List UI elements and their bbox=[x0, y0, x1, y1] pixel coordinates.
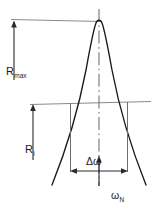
r-i-label: Ri bbox=[25, 140, 34, 156]
r-max-label: Rmax bbox=[6, 62, 26, 78]
r-i-label-base: R bbox=[25, 143, 33, 155]
delta-omega-label-base: Δω bbox=[86, 155, 101, 167]
r-max-label-base: R bbox=[6, 65, 14, 77]
r-i-reference-line bbox=[30, 102, 151, 105]
r-i-arrowhead-icon bbox=[30, 104, 36, 111]
bandwidth-left-arrowhead-icon bbox=[70, 168, 77, 173]
figure-canvas bbox=[0, 0, 164, 210]
bandwidth-right-arrowhead-icon bbox=[121, 168, 128, 173]
omega-n-label: ωN bbox=[111, 186, 124, 202]
resonance-curve-figure: Rmax Ri Δω ωN bbox=[0, 0, 164, 210]
r-i-label-subscript: i bbox=[33, 150, 34, 157]
omega-n-label-subscript: N bbox=[120, 196, 125, 203]
r-max-label-subscript: max bbox=[14, 72, 26, 79]
delta-omega-label: Δω bbox=[86, 152, 101, 168]
r-max-arrowhead-icon bbox=[11, 21, 17, 28]
omega-n-label-base: ω bbox=[111, 189, 119, 201]
r-max-reference-line bbox=[11, 20, 101, 22]
